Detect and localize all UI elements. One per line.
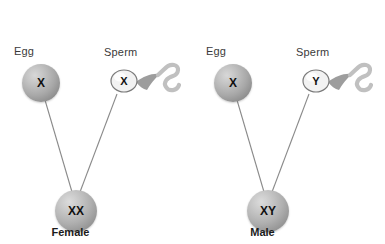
result-label: Female [0,226,193,238]
female-cross-panel: Egg X Sperm X XX Female [0,0,193,244]
egg-chromosome-label: X [214,64,252,102]
sperm-to-zygote-line [272,94,309,192]
egg-cell: X [214,64,252,102]
egg-caption: Egg [14,45,34,57]
sex-determination-diagram: Egg X Sperm X XX Female Egg [0,0,385,244]
sperm-tail [158,65,179,90]
sperm-chromosome-label: X [111,70,137,92]
result-label-text: Female [52,226,90,238]
egg-chromosome-label: X [22,64,60,102]
egg-to-zygote-line [45,100,72,192]
sperm-cell: X [106,56,186,106]
result-label-text: Male [250,226,274,238]
egg-to-zygote-line [237,100,264,192]
sperm-tail [350,65,371,90]
male-cross-panel: Egg X Sperm Y XY Male [192,0,385,244]
sperm-to-zygote-line [80,94,117,192]
result-label: Male [192,226,385,238]
egg-caption: Egg [206,45,226,57]
sperm-chromosome-label: Y [303,70,329,92]
egg-cell: X [22,64,60,102]
sperm-cell: Y [298,56,378,106]
